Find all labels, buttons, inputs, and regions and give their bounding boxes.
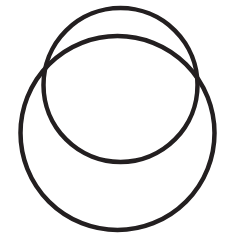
figure-svg bbox=[0, 0, 235, 250]
figure-canvas bbox=[0, 0, 235, 250]
